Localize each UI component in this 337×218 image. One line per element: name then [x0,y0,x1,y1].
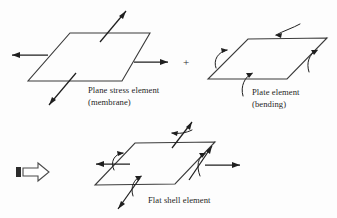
flat-shell-bottom-shear-force-arrow [118,178,140,209]
implies-arrow [16,163,49,181]
plane-stress-right-axial-force-arrow [134,59,168,65]
plate-element: Plate element (bending) [208,24,327,109]
plate-top-edge-moment-arrow [275,24,300,38]
plane-stress-caption-line2: (membrane) [88,97,131,107]
plate-caption-line1: Plate element [252,87,300,97]
plane-stress-parallelogram [28,33,150,81]
flat-shell-bottom-edge-moment-arrow [132,176,142,196]
plane-stress-element: Plane stress element (membrane) [12,11,168,107]
flat-shell-element: Flat shell element [95,122,240,209]
plane-stress-lower-shear-force-arrow [49,73,76,105]
flat-shell-right-axial-force-arrow [205,162,240,168]
flat-shell-right-shear-force-arrow [189,146,212,180]
plate-right-edge-moment-arrow [308,50,318,72]
figure-canvas: Plane stress element (membrane) + [0,0,337,218]
plane-stress-left-axial-force-arrow [12,52,48,58]
plane-stress-caption-line1: Plane stress element [88,85,160,95]
plus-operator: + [183,56,189,68]
plate-caption-line2: (bending) [252,99,286,109]
flat-shell-caption-line1: Flat shell element [148,195,211,205]
plane-stress-upper-shear-force-arrow [100,11,126,42]
diagram-svg: Plane stress element (membrane) + [0,0,337,218]
